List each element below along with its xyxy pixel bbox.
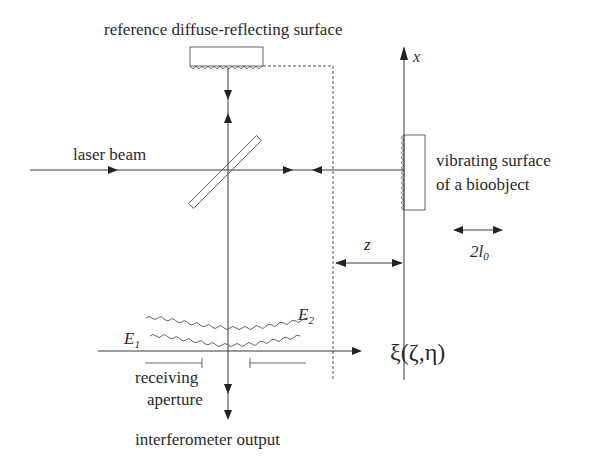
right-arrow-icon [352, 347, 362, 355]
e2-subscript: 2 [308, 314, 314, 326]
laser-beam-label: laser beam [73, 145, 146, 164]
x-axis-arrow-icon [400, 46, 408, 60]
x-axis-label: x [412, 48, 420, 65]
aperture-label-line2: aperture [147, 390, 203, 409]
output-label: interferometer output [135, 430, 280, 449]
svg-text:2l0: 2l0 [470, 242, 489, 262]
reference-plane-dashed-line [263, 66, 333, 380]
receiving-aperture [145, 358, 306, 368]
amplitude-subscript: 0 [483, 250, 489, 262]
right-arrow-icon [493, 226, 503, 234]
down-arrow-icon [224, 90, 232, 100]
bioobject-body [404, 135, 425, 210]
amplitude-indicator: 2l0 [453, 226, 503, 262]
beam-splitter [189, 136, 262, 209]
aperture-label-line1: receiving [135, 368, 199, 387]
right-arrow-icon [108, 166, 118, 174]
reference-surface-body [190, 47, 263, 66]
plane-coordinates-label: ξ(ζ,η) [390, 339, 445, 365]
output-arrow-icon [224, 410, 232, 420]
e2-label: E [297, 305, 309, 324]
bioobject-label-line2: of a bioobject [436, 175, 530, 194]
z-label: z [363, 235, 371, 254]
wavefront-e1 [150, 335, 300, 347]
interferometer-diagram: reference diffuse-reflecting surface las… [0, 0, 604, 461]
wavefront-e2 [146, 317, 308, 330]
up-arrow-icon [224, 113, 232, 123]
z-distance-indicator: z [335, 235, 403, 267]
svg-text:E1: E1 [123, 329, 140, 350]
down-arrow-icon [224, 384, 232, 394]
bioobject [402, 135, 426, 210]
left-arrow-icon [453, 226, 463, 234]
right-arrow-icon [392, 259, 403, 267]
e1-label: E [123, 329, 135, 348]
amplitude-label: 2l [470, 242, 484, 261]
left-arrow-icon [312, 166, 322, 174]
e1-subscript: 1 [134, 338, 140, 350]
reference-surface [190, 47, 263, 69]
right-arrow-icon [283, 166, 293, 174]
svg-text:E2: E2 [297, 305, 314, 326]
reference-surface-label: reference diffuse-reflecting surface [104, 20, 342, 39]
left-arrow-icon [335, 259, 346, 267]
bioobject-label-line1: vibrating surface [436, 151, 551, 170]
